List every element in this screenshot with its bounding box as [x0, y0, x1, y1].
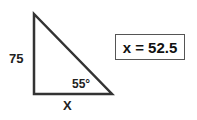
- answer-box: x = 52.5: [115, 34, 185, 60]
- right-triangle: [0, 0, 197, 120]
- angle-label: 55°: [72, 77, 90, 91]
- vertical-side-label: 75: [9, 51, 23, 66]
- answer-text: x = 52.5: [123, 39, 178, 56]
- base-label: X: [63, 98, 72, 113]
